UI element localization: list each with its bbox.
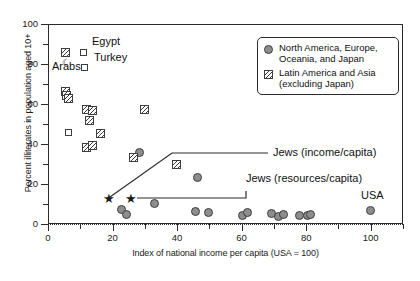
x-tick-mark [306, 224, 307, 231]
data-point-circle [193, 173, 202, 182]
data-point-circle [306, 210, 315, 219]
x-tick-minor [274, 224, 275, 229]
x-tick-label: 40 [162, 233, 192, 243]
y-tick-minor [43, 124, 48, 125]
legend-item-latin-america: Latin America and Asia (excluding Japan) [264, 68, 392, 89]
annotation-egypt: Egypt [92, 35, 120, 47]
zero-reference-line [48, 224, 403, 225]
x-tick-mark [113, 224, 114, 231]
y-tick-minor [43, 44, 48, 45]
data-point-hatched-square [88, 106, 97, 115]
data-point-hatched-square [85, 116, 94, 125]
filled-circle-icon [264, 45, 274, 54]
y-tick-minor [43, 84, 48, 85]
data-point-hatched-square [64, 94, 73, 103]
x-tick-label: 0 [33, 233, 63, 243]
y-tick-mark [41, 104, 48, 105]
legend-line-1: Latin America and Asia [279, 67, 376, 78]
data-point-hatched-square [140, 105, 149, 114]
annotation-jews-resources: Jews (resources/capita) [246, 172, 362, 184]
data-point-circle [150, 199, 159, 208]
data-point-star: ★ [125, 193, 136, 204]
annotation-jews-income: Jews (income/capita) [273, 146, 376, 158]
y-tick-mark [41, 184, 48, 185]
legend-line-2: (excluding Japan) [279, 78, 354, 89]
x-tick-mark [371, 224, 372, 231]
x-tick-minor [80, 224, 81, 229]
x-tick-mark [242, 224, 243, 231]
data-point-circle [279, 210, 288, 219]
y-tick-label: 0 [10, 219, 38, 229]
x-tick-mark [177, 224, 178, 231]
data-point-hatched-square [172, 160, 181, 169]
scatter-chart-figure: 020406080100 020406080100 Percent illite… [0, 0, 420, 281]
annotation-arabs: Arabs [52, 60, 81, 72]
data-point-hatched-square [96, 129, 105, 138]
data-point-star: ★ [103, 193, 114, 204]
y-tick-mark [41, 144, 48, 145]
x-tick-label: 60 [227, 233, 257, 243]
data-point-open-square [80, 49, 87, 56]
y-tick-mark [41, 24, 48, 25]
chart-legend: North America, Europe, Oceania, and Japa… [257, 37, 399, 95]
y-tick-mark [41, 224, 48, 225]
data-point-open-square [81, 64, 88, 71]
data-point-hatched-square [88, 141, 97, 150]
data-point-hatched-square [61, 48, 70, 57]
y-axis-title: Percent illiterates in population aged 1… [23, 16, 33, 211]
hatched-square-icon [264, 70, 274, 79]
x-tick-minor [145, 224, 146, 229]
x-tick-label: 100 [356, 233, 386, 243]
x-tick-minor [209, 224, 210, 229]
y-tick-mark [41, 64, 48, 65]
data-point-circle [243, 208, 252, 217]
legend-label-north-america: North America, Europe, Oceania, and Japa… [279, 43, 378, 64]
legend-line-2: Oceania, and Japan [279, 53, 364, 64]
data-point-circle [366, 206, 375, 215]
data-point-hatched-square [129, 153, 138, 162]
x-tick-mark [48, 224, 49, 231]
data-point-open-square [65, 129, 72, 136]
legend-label-latin-america: Latin America and Asia (excluding Japan) [279, 68, 376, 89]
y-tick-minor [43, 164, 48, 165]
legend-item-north-america: North America, Europe, Oceania, and Japa… [264, 43, 392, 64]
legend-line-1: North America, Europe, [279, 42, 378, 53]
annotation-turkey: Turkey [94, 51, 127, 63]
y-tick-minor [43, 204, 48, 205]
annotation-usa: USA [361, 189, 384, 201]
x-axis-title: Index of national income per capita (USA… [48, 248, 403, 258]
x-tick-minor [403, 224, 404, 229]
x-tick-label: 20 [98, 233, 128, 243]
x-tick-minor [338, 224, 339, 229]
x-tick-label: 80 [291, 233, 321, 243]
data-point-circle [122, 210, 131, 219]
